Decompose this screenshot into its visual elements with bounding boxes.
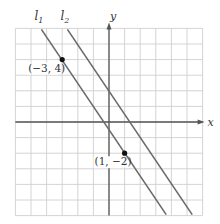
x-axis-arrow-icon (198, 120, 205, 125)
point-label-neg3-4: (−3, 4) (28, 62, 65, 74)
point-neg3-4 (60, 57, 65, 62)
y-axis-arrow-icon (107, 22, 112, 29)
point-label-1-neg2: (1, −2) (95, 155, 132, 167)
y-axis-label: y (109, 10, 117, 23)
x-axis-label: x (208, 116, 215, 129)
line-l1-label: l1 (34, 9, 43, 25)
lines: l1 l2 (34, 9, 192, 214)
line-l2-label: l2 (60, 9, 69, 25)
coordinate-plane-figure: x y l1 l2 (−3, 4) (1, −2) (0, 0, 220, 224)
graph-svg: x y l1 l2 (−3, 4) (1, −2) (0, 0, 220, 224)
points: (−3, 4) (1, −2) (27, 57, 131, 168)
point-1-neg2 (122, 151, 127, 156)
